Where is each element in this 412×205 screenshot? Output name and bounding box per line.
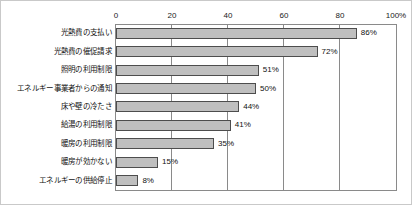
category-label: 光熱費の催促請求 [0,47,112,57]
category-label: エネルギー事業者からの通知 [0,84,112,94]
bar-value-label: 72% [322,47,338,57]
bar [116,138,214,149]
bar-value-label: 86% [361,28,377,38]
bar-value-label: 41% [235,120,251,130]
bar-row: 暖房が効かない15% [1,153,412,171]
bar [116,101,239,112]
x-tick-label-100: 100% [386,10,406,21]
bar-row: エネルギーの供給停止8% [1,172,412,190]
bar-rows: 光熱費の支払い86%光熱費の催促請求72%照明の利用制限51%エネルギー事業者か… [1,24,412,191]
bar [116,157,158,168]
bar-row: 床や壁の冷たさ44% [1,98,412,116]
x-tick-label-40: 40 [224,10,233,21]
x-tick-label-60: 60 [280,10,289,21]
bar-row: エネルギー事業者からの通知50% [1,79,412,97]
category-label: 暖房の利用制限 [0,139,112,149]
bar [116,65,259,76]
bar-value-label: 51% [263,65,279,75]
bar-row: 光熱費の支払い86% [1,24,412,42]
bar-row: 光熱費の催促請求72% [1,42,412,60]
category-label: 照明の利用制限 [0,65,112,75]
bar-row: 照明の利用制限51% [1,61,412,79]
x-tick-label-80: 80 [336,10,345,21]
bar-value-label: 50% [260,84,276,94]
bar-row: 給湯の利用制限41% [1,116,412,134]
bar-value-label: 44% [243,102,259,112]
bar-value-label: 8% [142,176,154,186]
bar-chart: 020406080100% 光熱費の支払い86%光熱費の催促請求72%照明の利用… [0,0,412,205]
category-label: 給湯の利用制限 [0,120,112,130]
bar [116,46,318,57]
x-tick-label-0: 0 [114,10,118,21]
category-label: エネルギーの供給停止 [0,176,112,186]
category-label: 光熱費の支払い [0,28,112,38]
bar [116,175,138,186]
bar-value-label: 15% [162,157,178,167]
x-axis-tick-labels: 020406080100% [1,10,412,23]
bar-value-label: 35% [218,139,234,149]
x-tick-label-20: 20 [168,10,177,21]
bar [116,28,357,39]
bar-row: 暖房の利用制限35% [1,135,412,153]
category-label: 暖房が効かない [0,157,112,167]
bar [116,120,231,131]
bar [116,83,256,94]
category-label: 床や壁の冷たさ [0,102,112,112]
